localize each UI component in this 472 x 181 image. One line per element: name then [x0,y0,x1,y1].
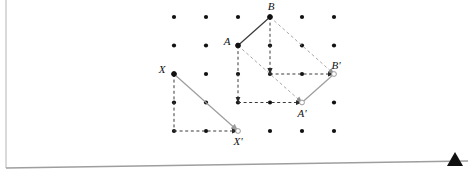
point-Ap [300,100,305,105]
point-A [236,43,241,48]
grid-dot [300,15,304,19]
label-Bp: B' [331,59,341,71]
grid-dot [332,100,336,104]
grid-dot [204,72,208,76]
grid-dot [332,43,336,47]
page-turn-triangle-icon [447,152,463,166]
grid-dot [268,129,272,133]
grid-dot [172,15,176,19]
grid-dot [204,43,208,47]
vector-X-Xp [174,74,238,131]
point-B [268,15,273,20]
grid-dot [236,15,240,19]
grid-dot [332,15,336,19]
label-X: X [158,63,167,75]
grid-dot [332,129,336,133]
label-Xp: X' [232,135,243,147]
grid-dot [204,15,208,19]
figure-page: ABA'B'XX' [0,0,472,181]
label-Ap: A' [296,107,307,119]
label-layer: ABA'B'XX' [158,0,342,147]
point-X [172,72,177,77]
translation-diagram: ABA'B'XX' [0,0,472,181]
grid-dot [300,129,304,133]
grid-dot [172,43,176,47]
label-B: B [268,0,275,12]
segment-A-B [238,17,270,46]
label-A: A [223,35,231,47]
point-Bp [332,72,337,77]
vector-layer [174,17,334,131]
segment-Ap-Bp [302,74,334,103]
point-Xp [236,129,241,134]
